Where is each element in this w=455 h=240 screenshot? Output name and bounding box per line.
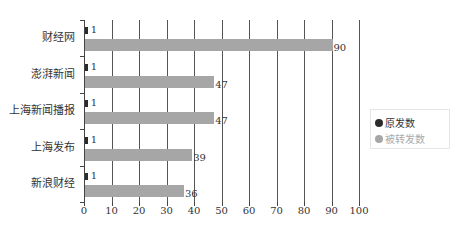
category-label: 上海新闻播报	[9, 101, 75, 117]
value-label: 36	[185, 188, 198, 200]
value-label: 1	[91, 134, 97, 146]
x-tick-label: 80	[298, 205, 311, 216]
x-tick-label: 40	[188, 205, 201, 216]
x-tick-label: 100	[349, 205, 368, 216]
value-label: 39	[193, 152, 206, 164]
bar-forwarded	[85, 76, 214, 88]
x-tick-label: 70	[270, 205, 283, 216]
legend-label: 原发数	[385, 115, 415, 130]
bar-forwarded	[85, 185, 184, 197]
value-label: 90	[334, 42, 347, 54]
value-label: 1	[91, 170, 97, 182]
legend-dot-icon	[375, 119, 383, 127]
x-tick-label: 50	[215, 205, 228, 216]
legend: 原发数 被转发数	[370, 109, 450, 149]
category-label: 澎湃新闻	[31, 65, 75, 81]
value-label: 47	[215, 79, 228, 91]
y-tick	[80, 56, 84, 57]
legend-dot-icon	[375, 135, 383, 143]
value-label: 1	[91, 24, 97, 36]
x-tick-label: 0	[81, 205, 87, 216]
category-label: 上海发布	[31, 138, 75, 154]
category-label: 新浪财经	[31, 174, 75, 190]
x-tick-label: 10	[105, 205, 118, 216]
value-label: 1	[91, 97, 97, 109]
y-tick	[80, 93, 84, 94]
category-label: 财经网	[42, 28, 75, 44]
x-tick-label: 30	[160, 205, 173, 216]
value-label: 47	[215, 115, 228, 127]
x-tick-label: 90	[325, 205, 338, 216]
bar-forwarded	[85, 112, 214, 124]
bar-original	[85, 27, 88, 34]
bar-original	[85, 173, 88, 180]
y-tick	[80, 129, 84, 130]
bar-original	[85, 137, 88, 144]
bar-forwarded	[85, 39, 333, 51]
legend-item-original: 原发数	[375, 115, 415, 130]
plot-area: 190147147139136	[84, 20, 359, 202]
legend-label: 被转发数	[385, 131, 425, 146]
y-tick	[80, 20, 84, 21]
y-tick	[80, 166, 84, 167]
bar-forwarded	[85, 149, 192, 161]
x-tick-label: 20	[133, 205, 146, 216]
bar-original	[85, 64, 88, 71]
x-tick-label: 60	[243, 205, 256, 216]
legend-item-forwarded: 被转发数	[375, 131, 425, 146]
gridline	[359, 20, 360, 202]
value-label: 1	[91, 61, 97, 73]
bar-original	[85, 100, 88, 107]
